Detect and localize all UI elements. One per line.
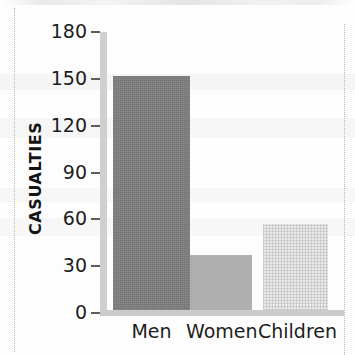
bar-women[interactable] xyxy=(190,255,252,310)
y-axis xyxy=(100,32,107,313)
y-tick-mark xyxy=(91,265,100,267)
bar-men[interactable] xyxy=(113,76,190,310)
y-tick-mark xyxy=(91,172,100,174)
y-tick-label: 0 xyxy=(17,303,87,322)
bar-children[interactable] xyxy=(263,224,328,310)
x-axis xyxy=(100,310,344,316)
chart-page: 180 150 120 90 60 30 0 Men xyxy=(0,0,355,355)
y-tick-label: 30 xyxy=(17,256,87,275)
y-tick-mark xyxy=(91,31,100,33)
y-tick-mark xyxy=(91,78,100,80)
y-axis-title: CASUALTIES xyxy=(26,108,46,248)
y-tick-mark xyxy=(91,312,100,314)
x-label-women: Women xyxy=(186,322,256,341)
y-tick-mark xyxy=(91,125,100,127)
y-tick-label: 180 xyxy=(17,22,87,41)
x-label-men: Men xyxy=(113,322,190,341)
x-label-children: Children xyxy=(258,322,333,341)
y-tick-mark xyxy=(91,218,100,220)
y-tick-label: 150 xyxy=(17,69,87,88)
plot-area: 180 150 120 90 60 30 0 Men xyxy=(0,0,355,355)
